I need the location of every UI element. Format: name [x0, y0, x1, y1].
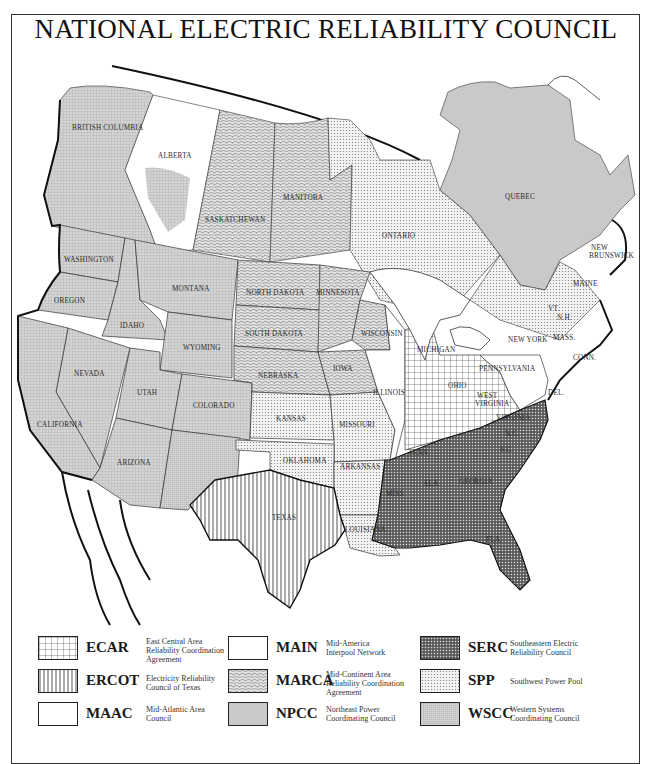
label-oklahoma: OKLAHOMA — [283, 457, 327, 465]
label-west: WEST — [477, 392, 498, 400]
label-california: CALIFORNIA — [37, 421, 83, 429]
ercot-swatch-icon — [38, 669, 78, 693]
label-ontario: ONTARIO — [382, 232, 415, 240]
label-nc: N.C. — [505, 430, 519, 438]
legend-description: Southeastern ElectricReliability Council — [510, 639, 630, 657]
serc-swatch-icon — [420, 636, 460, 660]
spp-swatch-icon — [420, 669, 460, 693]
legend-code: SPP — [468, 672, 495, 689]
ecar-swatch-icon — [38, 636, 78, 660]
label-sc: S.C. — [500, 446, 513, 454]
label-manitoba: MANITOBA — [283, 194, 324, 202]
label-michigan: MICHIGAN — [417, 346, 456, 354]
label-missouri: MISSOURI — [339, 421, 375, 429]
label-maine: MAINE — [573, 280, 598, 288]
label-oregon: OREGON — [54, 297, 86, 305]
legend-description: Western SystemsCoordinating Council — [510, 705, 630, 723]
npcc-swatch-icon — [228, 702, 268, 726]
label-ohio: OHIO — [448, 382, 467, 390]
legend-description: Southwest Power Pool — [510, 677, 630, 686]
label-texas: TEXAS — [272, 514, 296, 522]
label-nh: N.H. — [557, 314, 572, 322]
label-north-dakota: NORTH DAKOTA — [246, 289, 305, 297]
label-arkansas: ARKANSAS — [340, 463, 380, 471]
maac-swatch-icon — [38, 702, 78, 726]
label-fla: FLA. — [486, 536, 502, 544]
label-virginia: VIRGINIA — [496, 414, 531, 422]
label-nevada: NEVADA — [74, 370, 105, 378]
label-idaho: IDAHO — [120, 322, 144, 330]
label-quebec: QUEBEC — [505, 193, 535, 201]
label-utah: UTAH — [137, 389, 157, 397]
label-conn: CONN. — [573, 354, 596, 362]
label-wisconsin: WISCONSIN — [361, 330, 403, 338]
legend-code: ECAR — [86, 639, 129, 656]
legend-code: ERCOT — [86, 672, 139, 689]
legend-code: MAIN — [276, 639, 318, 656]
label-louisiana: LOUISIANA — [345, 526, 387, 534]
label-saskatchewan: SASKATCHEWAN — [205, 216, 266, 224]
label-minnesota: MINNESOTA — [316, 289, 360, 297]
label-washington: WASHINGTON — [64, 256, 114, 264]
legend-code: MARCA — [276, 672, 334, 689]
legend-code: SERC — [468, 639, 508, 656]
label-vt: VT. — [548, 305, 559, 313]
label-south-dakota: SOUTH DAKOTA — [245, 330, 304, 338]
label-miss: MISS. — [386, 490, 406, 498]
main-swatch-icon — [228, 636, 268, 660]
label-pennsylvania: PENNSYLVANIA — [479, 365, 536, 373]
label-brunswick: BRUNSWICK — [589, 252, 635, 260]
label-illinois: ILLINOIS — [373, 389, 405, 397]
label-wyoming: WYOMING — [183, 344, 221, 352]
label-tenn: TENN. — [408, 449, 430, 457]
label-kansas: KANSAS — [276, 415, 306, 423]
label-colorado: COLORADO — [193, 402, 235, 410]
wscc-swatch-icon — [420, 702, 460, 726]
label-del: DEL. — [548, 389, 565, 397]
label-ala: ALA. — [423, 480, 440, 488]
label-iowa: IOWA — [333, 365, 353, 373]
label-arizona: ARIZONA — [117, 459, 151, 467]
label-west-virginia: VIRGINIA — [475, 400, 510, 408]
label-british-columbia: BRITISH COLUMBIA — [72, 124, 144, 132]
region-south-dakota — [234, 305, 320, 352]
marca-swatch-icon — [228, 669, 268, 693]
region-north-dakota — [236, 260, 320, 310]
region-texas — [190, 470, 345, 608]
legend-code: MAAC — [86, 705, 133, 722]
label-mass: MASS. — [553, 334, 575, 342]
label-new-york: NEW YORK — [508, 336, 548, 344]
label-new: NEW — [591, 244, 608, 252]
label-montana: MONTANA — [172, 285, 210, 293]
label-alberta: ALBERTA — [158, 152, 192, 160]
legend-code: NPCC — [276, 705, 318, 722]
label-nebraska: NEBRASKA — [258, 372, 299, 380]
label-georgia: GEORGIA — [459, 478, 493, 486]
legend-code: WSCC — [468, 705, 513, 722]
